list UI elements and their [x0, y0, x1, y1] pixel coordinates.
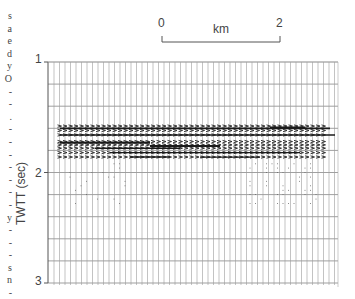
- diffraction-dot: [261, 199, 262, 200]
- diffraction-dot: [266, 181, 267, 182]
- diffraction-dot: [70, 172, 71, 173]
- diffraction-dot: [119, 203, 120, 204]
- diffraction-dot: [266, 185, 267, 186]
- diffraction-dot: [283, 190, 284, 191]
- diffraction-dot: [277, 168, 278, 169]
- diffraction-dot: [310, 168, 311, 169]
- diffraction-dot: [310, 185, 311, 186]
- diffraction-dot: [305, 190, 306, 191]
- diffraction-dot: [119, 168, 120, 169]
- diffraction-dot: [86, 194, 87, 195]
- diffraction-dot: [294, 163, 295, 164]
- diffraction-dot: [277, 203, 278, 204]
- diffraction-dot: [277, 172, 278, 173]
- scale-unit-label: km: [213, 22, 229, 36]
- scale-bar: [0, 0, 355, 60]
- diffraction-dot: [125, 185, 126, 186]
- diffraction-dot: [288, 203, 289, 204]
- diffraction-dot: [108, 176, 109, 177]
- grid: [48, 62, 338, 285]
- diffraction-dot: [97, 199, 98, 200]
- diffraction-dot: [250, 185, 251, 186]
- y-tick-2: 2: [35, 166, 42, 180]
- diffraction-dot: [277, 194, 278, 195]
- diffraction-dot: [114, 176, 115, 177]
- diffraction-dot: [70, 176, 71, 177]
- diffraction-dot: [283, 185, 284, 186]
- diffraction-dot: [266, 168, 267, 169]
- y-tick-1: 1: [35, 52, 42, 66]
- diffraction-dot: [305, 194, 306, 195]
- diffraction-dot: [316, 199, 317, 200]
- axes: [44, 62, 338, 287]
- diffraction-dot: [255, 194, 256, 195]
- diffraction-dot: [305, 168, 306, 169]
- diffraction-dot: [299, 176, 300, 177]
- diffraction-dot: [81, 185, 82, 186]
- diffraction-dot: [272, 163, 273, 164]
- diffraction-dot: [92, 172, 93, 173]
- diffraction-dot: [277, 163, 278, 164]
- scale-bar-line: [162, 36, 280, 42]
- y-axis-label: TWTT (sec): [14, 162, 28, 225]
- diffraction-dot: [75, 190, 76, 191]
- seismic-traces: [58, 125, 336, 204]
- diffraction-dot: [250, 181, 251, 182]
- diffraction-dot: [114, 199, 115, 200]
- y-tick-3: 3: [35, 274, 42, 288]
- diffraction-dot: [299, 181, 300, 182]
- diffraction-dot: [266, 163, 267, 164]
- diffraction-dot: [75, 203, 76, 204]
- diffraction-dot: [316, 194, 317, 195]
- diffraction-dot: [305, 172, 306, 173]
- scale-start-label: 0: [158, 16, 165, 30]
- diffraction-dot: [283, 194, 284, 195]
- diffraction-dot: [255, 163, 256, 164]
- diffraction-dot: [266, 172, 267, 173]
- diffraction-dot: [283, 172, 284, 173]
- diffraction-dot: [103, 172, 104, 173]
- diffraction-dot: [86, 181, 87, 182]
- diffraction-dot: [310, 176, 311, 177]
- diffraction-dot: [255, 203, 256, 204]
- diffraction-dot: [310, 190, 311, 191]
- diffraction-dot: [283, 203, 284, 204]
- diffraction-dot: [250, 194, 251, 195]
- scale-end-label: 2: [276, 16, 283, 30]
- diffraction-dot: [294, 203, 295, 204]
- diffraction-dot: [250, 168, 251, 169]
- diffraction-dot: [250, 203, 251, 204]
- diffraction-dot: [119, 163, 120, 164]
- diffraction-dot: [288, 190, 289, 191]
- diffraction-dot: [125, 181, 126, 182]
- diffraction-dot: [288, 168, 289, 169]
- diffraction-dot: [310, 163, 311, 164]
- diffraction-dot: [310, 203, 311, 204]
- diffraction-dot: [114, 163, 115, 164]
